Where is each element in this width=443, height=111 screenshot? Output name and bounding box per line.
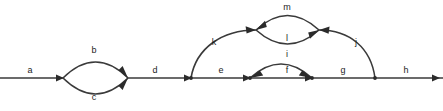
edge-label-h: h [403,66,408,75]
edge-h [375,75,443,82]
edge-label-f: f [286,66,289,75]
edge-a-arrowhead [56,75,64,82]
edge-k-arrowhead [246,26,256,33]
edge-label-i: i [286,50,288,59]
vertex-n5 [310,76,314,80]
edge-j-arc [319,30,375,78]
edge-b-arc [63,62,128,78]
vertex-n4 [248,76,252,80]
edge-label-m: m [283,3,291,12]
edge-label-e: e [218,66,223,75]
graph-svg [0,0,443,111]
edge-c-arrowhead [118,78,128,90]
diagram-canvas: a b c d e k m l i f g j h [0,0,443,111]
edge-j-arrowhead [319,27,330,34]
edge-m-arrowhead [256,21,267,30]
edge-label-g: g [340,66,345,75]
edge-a [0,75,64,82]
edge-label-j: j [355,38,357,47]
edge-h-arrowhead [432,75,440,82]
edge-label-b: b [91,46,96,55]
edge-d [128,75,192,82]
edge-label-k: k [212,38,217,47]
edge-l-arrowhead [308,30,319,39]
edge-b-arrowhead [118,66,128,78]
vertex-n6 [373,76,377,80]
edge-e [191,75,251,82]
edge-label-l: l [286,34,288,43]
edge-label-a: a [27,66,32,75]
edge-i [250,64,312,78]
edge-label-c: c [92,93,97,102]
edge-m [256,16,319,31]
edge-b [63,62,128,78]
edge-j [319,27,375,78]
edge-label-d: d [152,66,157,75]
vertex-n3 [189,76,193,80]
